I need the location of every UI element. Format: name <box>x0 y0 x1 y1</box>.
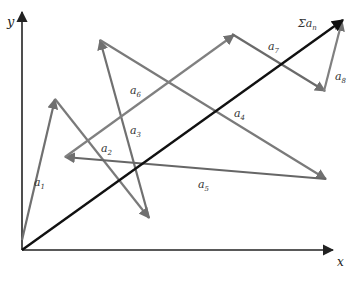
vector-addition-diagram: yx a1a2a3a4a5a6a7a8Σan <box>0 0 359 281</box>
vector-label-a5: a5 <box>198 178 210 193</box>
vector-a2 <box>55 99 149 218</box>
resultant-sum-vector <box>22 20 343 250</box>
y-axis-label: y <box>6 14 15 29</box>
resultant-vector <box>22 20 343 250</box>
vector-label-a6: a6 <box>130 84 142 99</box>
vector-a1 <box>22 99 55 240</box>
vector-label-a2: a2 <box>101 142 113 157</box>
vector-a5 <box>65 157 326 179</box>
vector-a6 <box>65 35 234 157</box>
vector-label-a3: a3 <box>130 124 142 139</box>
vector-label-a1: a1 <box>34 176 45 191</box>
vector-a4 <box>100 40 326 179</box>
resultant-label: Σan <box>297 17 317 32</box>
vector-label-a7: a7 <box>268 40 280 55</box>
vector-label-a8: a8 <box>335 70 347 85</box>
vector-label-a4: a4 <box>234 107 245 122</box>
x-axis-label: x <box>337 255 344 269</box>
